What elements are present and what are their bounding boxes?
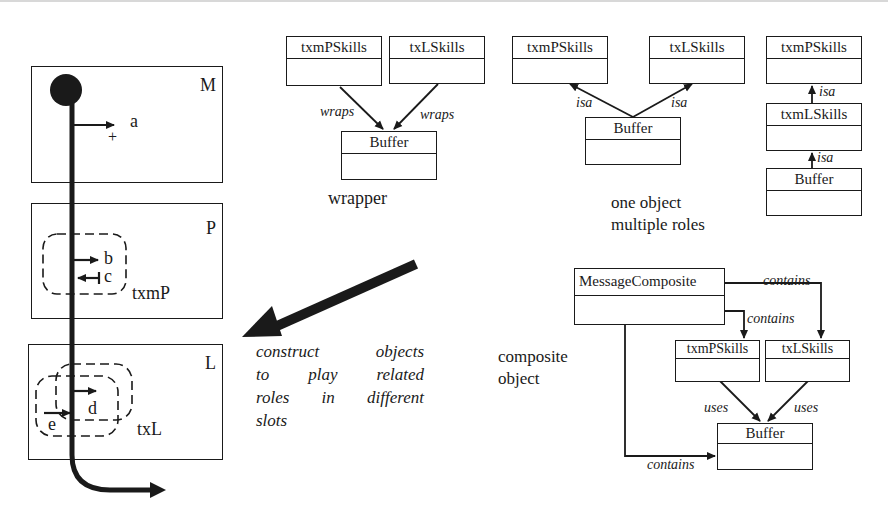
uses-label-2: uses <box>794 401 818 415</box>
path-end-arrow-icon <box>150 482 166 498</box>
class-txLSkills-composite: txLSkills <box>765 340 850 382</box>
construct-note: construct objects to play related roles … <box>256 340 424 432</box>
class-Buffer-wrapper: Buffer <box>341 131 437 180</box>
slot-P: P <box>31 203 223 319</box>
isa-label-4: isa <box>817 151 833 165</box>
label-c: c <box>104 267 112 285</box>
construct-arrow-head-icon <box>242 306 282 337</box>
class-Buffer-roles: Buffer <box>585 117 681 165</box>
role-label-txmP: txmP <box>132 284 170 302</box>
class-txLSkills-roles: txLSkills <box>649 36 745 84</box>
contains-edge-txmPSkills <box>724 311 744 338</box>
caption-wrapper: wrapper <box>328 189 387 207</box>
class-txmPSkills-roles: txmPSkills <box>512 36 608 84</box>
wraps-label-2: wraps <box>420 108 454 122</box>
contains-label-3: contains <box>647 458 694 472</box>
class-txmPSkills-composite: txmPSkills <box>675 340 760 382</box>
contains-label-1: contains <box>763 274 810 288</box>
wraps-label-1: wraps <box>320 105 354 119</box>
construct-arrow-shaft <box>268 264 416 330</box>
label-b: b <box>104 249 113 267</box>
uses-label-1: uses <box>704 401 728 415</box>
slot-M: M <box>31 66 223 183</box>
class-txmPSkills-wrapper: txmPSkills <box>286 36 382 86</box>
class-txmPSkills-chain: txmPSkills <box>766 36 862 84</box>
label-a: a <box>130 112 138 130</box>
label-plus: + <box>108 129 117 145</box>
contains-label-2: contains <box>747 312 794 326</box>
caption-one-object-multiple-roles: one object multiple roles <box>611 192 705 236</box>
isa-label-1: isa <box>576 96 592 110</box>
label-d: d <box>88 399 97 417</box>
role-label-txL: txL <box>137 420 162 438</box>
caption-composite-object: composite object <box>498 346 568 390</box>
class-MessageComposite: MessageComposite <box>574 268 725 325</box>
label-e: e <box>48 415 56 433</box>
slot-L: L <box>28 344 223 460</box>
slot-M-label: M <box>200 75 216 96</box>
class-Buffer-composite: Buffer <box>717 423 813 470</box>
class-txmLSkills-chain: txmLSkills <box>766 103 862 151</box>
isa-label-2: isa <box>671 96 687 110</box>
class-txLSkills-wrapper: txLSkills <box>389 36 485 84</box>
slot-P-label: P <box>206 218 216 239</box>
isa-label-3: isa <box>819 85 835 99</box>
slot-L-label: L <box>205 353 216 374</box>
class-Buffer-chain: Buffer <box>766 168 862 216</box>
